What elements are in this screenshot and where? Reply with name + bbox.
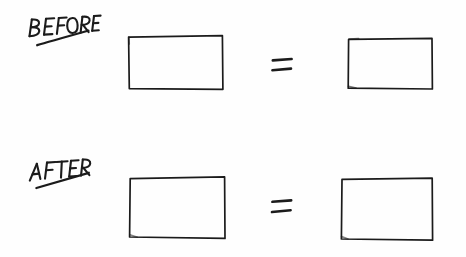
before-equals-sign (272, 59, 291, 70)
after-right-rectangle (341, 178, 432, 240)
sketch-drawing (0, 0, 466, 257)
before-left-rectangle (129, 36, 223, 90)
after-equals-sign (272, 200, 291, 212)
before-label-glyphs (30, 16, 101, 46)
after-label-glyphs (30, 159, 90, 188)
after-left-rectangle (130, 177, 225, 239)
sketch-canvas: BEFORE = AFTER = (0, 0, 466, 257)
before-right-rectangle (348, 38, 432, 89)
